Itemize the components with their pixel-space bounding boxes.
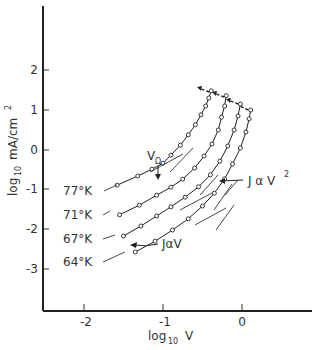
data-point [193,166,197,170]
data-point [238,102,242,106]
data-point [247,117,251,121]
data-point [204,104,208,108]
data-point [170,228,174,232]
y-axis-label: log 10 mA/cm 2 [4,105,23,196]
label-67K: 67°K [63,232,93,246]
annotation-jv2: J α V 2 [219,170,289,188]
data-point [238,146,242,150]
x-axis-label-log: log [148,329,166,343]
label-64K: 64°K [63,255,93,269]
data-point [153,239,157,243]
data-point [186,133,190,137]
data-point [236,114,240,118]
x-axis-label-sub: 10 [168,337,178,346]
y-tick-1: 1 [30,103,38,117]
x-tick-m1: -1 [159,315,171,329]
data-point [216,128,220,132]
curve-77K [117,91,211,185]
jv2-label: J α V [247,174,276,188]
y-axis-label-sup: 2 [4,105,13,110]
y-axis-label-unit: mA/cm [6,118,20,160]
data-point [181,177,185,181]
label-leaders [103,185,125,262]
data-point [186,217,190,221]
data-point [139,224,143,228]
data-point [226,144,230,148]
data-point [136,174,140,178]
y-tick-2: 2 [30,63,38,77]
vohm-sub: Ω [155,157,161,166]
data-point [178,143,182,147]
data-point [133,250,137,254]
data-point [208,173,212,177]
x-tick-labels: -2 -1 0 [80,315,246,329]
y-tick-m1: -1 [26,182,38,196]
data-point [219,115,223,119]
x-tick-m2: -2 [80,315,92,329]
data-point [169,205,173,209]
jv-label: JαV [161,237,182,251]
tangent-lines [150,148,238,230]
data-point [210,142,214,146]
jv2-sup: 2 [284,170,289,179]
data-point [199,113,203,117]
y-axis-label-sub: 10 [14,166,23,176]
y-tick-m2: -2 [26,222,38,236]
data-point [212,191,216,195]
data-point [169,153,173,157]
data-point [244,130,248,134]
y-tick-m3: -3 [26,262,38,276]
curves [115,89,253,254]
x-ticks [84,304,242,311]
annotation-vohm: V Ω [147,149,161,180]
data-point [201,204,205,208]
data-point [169,185,173,189]
data-point [155,214,159,218]
data-point [137,203,141,207]
y-axis-label-log: log [6,178,20,196]
data-point [207,96,211,100]
data-point [183,195,187,199]
data-point [224,94,228,98]
curve-labels: 77°K 71°K 67°K 64°K [63,184,93,269]
data-point [155,193,159,197]
x-axis-label-var: V [185,329,194,343]
y-tick-labels: 2 1 0 -1 -2 -3 [26,63,38,276]
data-point [218,159,222,163]
data-point [122,234,126,238]
y-tick-0: 0 [30,143,38,157]
data-point [232,128,236,132]
label-71K: 71°K [63,208,93,222]
jv-log-chart: 2 1 0 -1 -2 -3 -2 -1 0 log 10 mA/cm 2 lo… [0,0,314,350]
data-point [118,213,122,217]
data-point [223,104,227,108]
data-point [231,162,235,166]
data-point [193,123,197,127]
x-axis-label: log 10 V [148,329,194,346]
data-point [197,185,201,189]
x-tick-0: 0 [238,315,246,329]
data-point [202,154,206,158]
label-77K: 77°K [63,184,93,198]
curve-67K [124,104,241,236]
data-point [249,108,253,112]
